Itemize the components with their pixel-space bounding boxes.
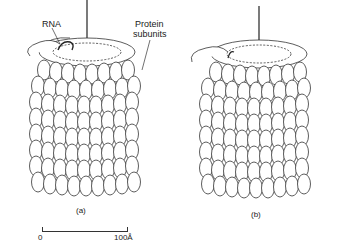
scale-bar-end: 100Å — [114, 233, 133, 242]
panel-b: (b) — [170, 0, 339, 224]
rna-label: RNA — [42, 19, 61, 29]
scale-bar-line — [42, 227, 128, 232]
scale-bar: 0 100Å — [38, 226, 133, 244]
panel-b-caption: (b) — [251, 210, 261, 219]
protein-subunits-label-line2: subunits — [133, 29, 167, 39]
panel-a-caption: (a) — [76, 206, 86, 215]
protein-subunit-rows-b — [200, 62, 311, 198]
panel-a: RNA Protein subunits (a) — [0, 0, 170, 224]
protein-subunits-label-line1: Protein — [135, 19, 164, 29]
helical-virus-illustration-b — [170, 0, 339, 224]
scale-bar-start: 0 — [38, 233, 42, 242]
protein-subunit-rows — [30, 60, 141, 196]
